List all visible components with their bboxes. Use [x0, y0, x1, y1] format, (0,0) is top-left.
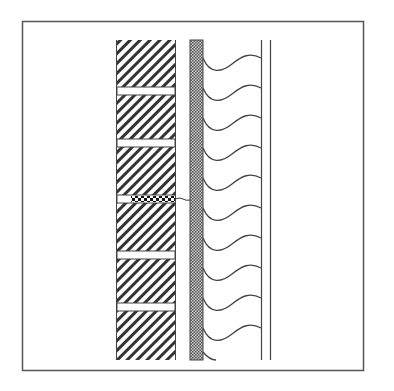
interior-finish: [262, 40, 271, 360]
insulation: [203, 55, 261, 360]
wall-section-diagram: [0, 0, 394, 391]
sheathing: [190, 40, 203, 360]
wall-tie: [131, 196, 190, 202]
